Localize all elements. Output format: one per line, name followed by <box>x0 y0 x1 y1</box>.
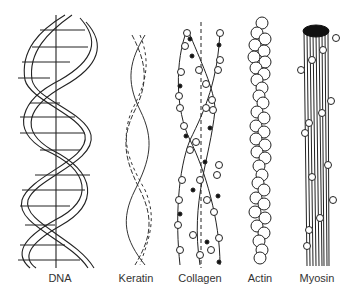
myosin-filament <box>298 25 340 266</box>
dna-double-helix <box>18 15 97 268</box>
label-dna: DNA <box>30 272 90 284</box>
label-collagen: Collagen <box>170 272 230 284</box>
label-myosin: Myosin <box>287 272 347 284</box>
actin-filament <box>248 17 271 264</box>
keratin-coiled-coil <box>126 35 151 265</box>
label-actin: Actin <box>230 272 290 284</box>
label-keratin: Keratin <box>106 272 166 284</box>
collagen-triple-helix <box>178 22 220 268</box>
protein-structures-diagram <box>0 0 353 298</box>
